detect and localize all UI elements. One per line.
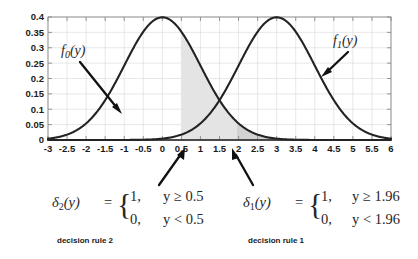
y-tick-label: 0.25 [26,58,45,69]
x-tick-label: 4 [312,143,318,154]
rule2-caption: decision rule 2 [57,236,114,245]
rule2-case-true-condition: y ≥ 0.5 [163,188,204,204]
x-tick-label: -1.5 [97,143,114,154]
rule2-case-true-value: 1, [130,188,141,204]
rule1-case-false-condition: y < 1.96 [352,211,400,227]
rule1-symbol: δ1(y) [243,194,271,212]
x-tick-label: -1 [120,143,129,154]
x-tick-label: -2.5 [59,143,76,154]
rule2-symbol: δ2(y) [52,194,80,212]
x-tick-label: -2 [82,143,90,154]
rule1-equals: = [295,194,303,210]
y-tick-label: 0.35 [26,27,45,38]
y-tick-label: 0.2 [31,73,44,84]
x-tick-label: 3.5 [289,143,303,154]
y-tick-label: 0.4 [31,11,45,22]
x-tick-label: 1.5 [213,143,227,154]
x-tick-label: -3 [44,143,52,154]
rule2-case-false-condition: y < 0.5 [163,211,204,227]
x-tick-label: 0 [160,143,165,154]
x-tick-label: 2 [236,143,241,154]
x-tick-label: 5 [350,143,356,154]
rule1-case-true-value: 1, [321,188,332,204]
rule1-case-false-value: 0, [321,211,332,227]
x-tick-label: 1 [198,143,204,154]
y-tick-label: 0.15 [26,88,45,99]
x-tick-label: 2.5 [251,143,265,154]
y-tick-label: 0.05 [26,119,45,130]
x-tick-label: 3 [274,143,279,154]
y-tick-label: 0.1 [31,104,45,115]
x-tick-label: 5.5 [365,143,379,154]
f0-label: f0(y) [61,43,86,60]
rule1-case-true-condition: y ≥ 1.96 [352,188,400,204]
f1-label: f1(y) [333,33,358,50]
y-tick-label: 0.3 [31,42,44,53]
rule2-case-false-value: 0, [130,211,141,227]
rule1-caption: decision rule 1 [248,236,305,245]
x-tick-label: 6 [388,143,393,154]
x-tick-label: 4.5 [327,143,341,154]
rule2-equals: = [104,194,112,210]
decision-rule-figure: 00.050.10.150.20.250.30.350.4 -3-2.5-2-1… [0,0,418,259]
x-tick-label: -0.5 [135,143,152,154]
